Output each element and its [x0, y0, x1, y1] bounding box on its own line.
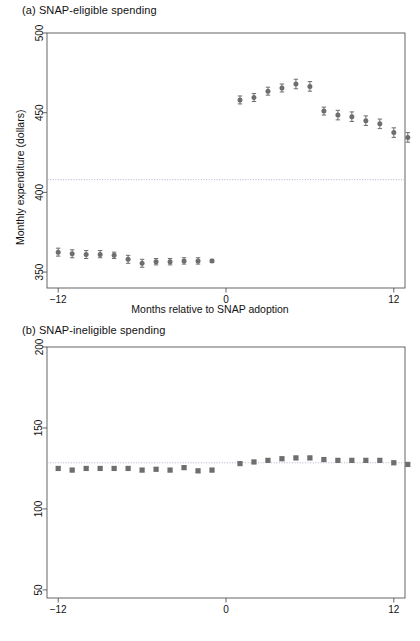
marker-circle [210, 258, 215, 263]
data-point [405, 462, 410, 467]
data-point [237, 96, 242, 104]
data-point [279, 456, 284, 461]
data-point [154, 259, 159, 265]
marker-circle [182, 258, 187, 263]
marker-square [307, 455, 312, 460]
data-point [321, 107, 326, 115]
data-point [405, 133, 410, 143]
marker-circle [126, 257, 131, 262]
data-point [126, 466, 131, 471]
panel-a-y-axis-label: Monthly expenditure (dollars) [14, 110, 26, 245]
x-tick-label: 12 [388, 604, 400, 615]
data-point [181, 465, 186, 470]
data-point [237, 461, 242, 466]
plot-frame [47, 347, 405, 598]
marker-square [377, 458, 382, 463]
data-point [126, 255, 131, 263]
marker-square [112, 466, 117, 471]
marker-square [70, 467, 75, 472]
marker-circle [98, 252, 103, 257]
data-point [209, 467, 214, 472]
marker-circle [112, 253, 117, 258]
data-point [307, 82, 312, 92]
marker-circle [279, 85, 284, 90]
data-point [335, 458, 340, 463]
figure-container: (a) SNAP-eligible spending 350400450500−… [0, 0, 420, 641]
marker-square [293, 455, 298, 460]
marker-circle [84, 252, 89, 257]
data-point [349, 458, 354, 463]
marker-square [181, 465, 186, 470]
x-tick-label: −12 [50, 604, 67, 615]
marker-circle [307, 84, 312, 89]
data-point [70, 250, 75, 258]
marker-square [56, 466, 61, 471]
data-point [84, 466, 89, 471]
x-tick-label: 0 [223, 604, 229, 615]
data-point [182, 258, 187, 264]
data-point [84, 251, 89, 259]
marker-circle [335, 113, 340, 118]
marker-square [321, 457, 326, 462]
y-tick-label: 150 [34, 419, 45, 436]
marker-circle [140, 261, 145, 266]
data-point [391, 128, 396, 138]
data-point [335, 110, 340, 120]
marker-square [335, 458, 340, 463]
data-point [377, 458, 382, 463]
marker-square [251, 459, 256, 464]
marker-square [405, 462, 410, 467]
data-point [391, 460, 396, 465]
data-point [168, 259, 173, 265]
data-point [279, 84, 284, 92]
data-point [56, 248, 61, 256]
y-tick-label: 50 [34, 584, 45, 596]
data-point [140, 259, 145, 267]
marker-square [195, 468, 200, 473]
marker-circle [70, 251, 75, 256]
marker-circle [321, 109, 326, 114]
marker-circle [293, 82, 298, 87]
data-point [195, 468, 200, 473]
panel-b: (b) SNAP-ineligible spending 50100150200… [0, 320, 420, 641]
marker-circle [196, 258, 201, 263]
data-point [251, 94, 256, 102]
data-point [98, 466, 103, 471]
marker-circle [405, 135, 410, 140]
marker-square [237, 461, 242, 466]
marker-square [209, 467, 214, 472]
data-point [210, 258, 215, 263]
data-point [153, 467, 158, 472]
marker-circle [237, 97, 242, 102]
marker-circle [265, 89, 270, 94]
marker-square [279, 456, 284, 461]
data-point [321, 457, 326, 462]
marker-circle [56, 250, 61, 255]
panel-a-x-axis-label: Months relative to SNAP adoption [0, 303, 420, 315]
marker-square [84, 466, 89, 471]
marker-circle [154, 259, 159, 264]
data-point [265, 458, 270, 463]
y-tick-label: 500 [34, 24, 45, 41]
y-tick-label: 400 [34, 184, 45, 201]
plot-frame [47, 33, 405, 288]
marker-square [126, 466, 131, 471]
data-point [251, 459, 256, 464]
data-point [98, 251, 103, 258]
marker-circle [363, 118, 368, 123]
data-point [112, 252, 117, 258]
marker-square [349, 458, 354, 463]
data-point [70, 467, 75, 472]
data-point [112, 466, 117, 471]
marker-square [153, 467, 158, 472]
marker-circle [251, 95, 256, 100]
data-point [377, 119, 382, 129]
marker-circle [377, 121, 382, 126]
y-tick-label: 100 [34, 500, 45, 517]
data-point [293, 79, 298, 89]
marker-square [139, 467, 144, 472]
panel-b-plot: 50100150200−12012 [0, 320, 420, 641]
data-point [196, 258, 201, 264]
data-point [349, 112, 354, 122]
marker-square [167, 467, 172, 472]
